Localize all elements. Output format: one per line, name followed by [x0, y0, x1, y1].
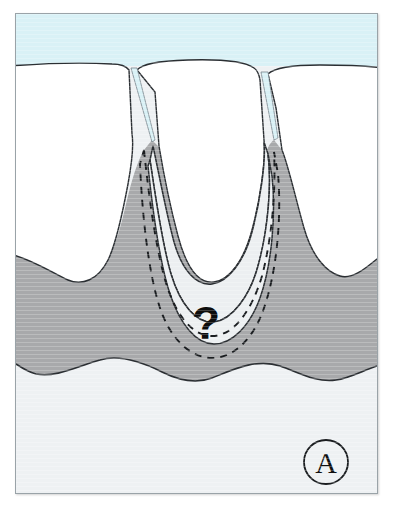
dental-diagram-svg: ? A [16, 14, 377, 493]
figure-frame: ? A [15, 13, 378, 494]
texture-overlay [16, 14, 377, 493]
figure-root: ? A [0, 0, 395, 527]
